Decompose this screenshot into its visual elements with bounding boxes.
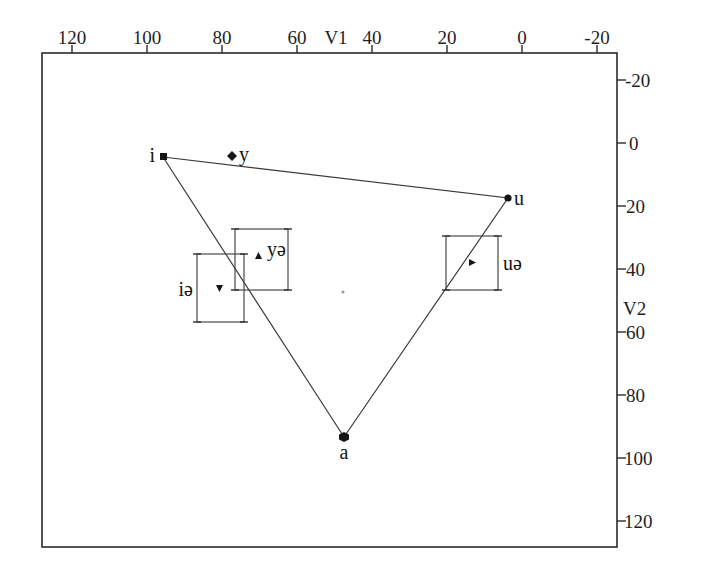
- vowel-point-a: a: [339, 432, 349, 463]
- box-ye-schwa: yə: [231, 229, 292, 290]
- top-tick-label-120: 120: [58, 27, 87, 48]
- triangle-right-icon-ue-schwa: [469, 259, 476, 266]
- triangle-up-icon-ye-schwa: [255, 252, 262, 259]
- right-tick-label-120: 120: [624, 511, 653, 532]
- point-label-y: y: [239, 143, 249, 166]
- point-label-u: u: [514, 187, 524, 209]
- point-label-i: i: [149, 144, 155, 166]
- box-ie-schwa: iə: [179, 254, 248, 322]
- plot-frame: [42, 53, 617, 547]
- box-label-ie-schwa: iə: [179, 278, 194, 300]
- circle-marker-u: [504, 194, 511, 201]
- faint-center-dot: [341, 290, 344, 293]
- vowel-chart-page: 120 100 80 60 40 20 0 -20 V1 -20 0 20: [0, 0, 712, 580]
- point-label-a: a: [340, 441, 349, 463]
- box-label-ue-schwa: uə: [503, 252, 522, 274]
- triangle-down-icon-ie-schwa: [216, 285, 223, 292]
- box-label-ye-schwa: yə: [267, 238, 286, 261]
- right-tick-label-80: 80: [626, 385, 645, 406]
- right-tick-label-100: 100: [624, 448, 653, 469]
- vowel-triangle-path: [163, 157, 508, 437]
- top-tick-label-20: 20: [438, 27, 457, 48]
- right-tick-label-minus20: -20: [625, 70, 650, 91]
- top-tick-label-minus20: -20: [584, 27, 609, 48]
- right-tick-label-60: 60: [626, 322, 645, 343]
- axis-title-v1: V1: [324, 27, 347, 48]
- diamond-marker-y: [227, 151, 237, 161]
- top-tick-label-0: 0: [517, 27, 527, 48]
- vowel-point-i: i: [149, 144, 167, 166]
- right-tick-label-40: 40: [626, 259, 645, 280]
- top-tick-label-60: 60: [288, 27, 307, 48]
- vowel-plot-svg: 120 100 80 60 40 20 0 -20 V1 -20 0 20: [0, 0, 712, 580]
- top-tick-label-100: 100: [133, 27, 162, 48]
- axis-title-v2: V2: [623, 298, 646, 319]
- right-tick-label-0: 0: [629, 133, 639, 154]
- box-ue-schwa: uə: [442, 236, 522, 290]
- right-tick-label-20: 20: [626, 196, 645, 217]
- top-tick-label-40: 40: [363, 27, 382, 48]
- vowel-point-u: u: [504, 187, 524, 209]
- square-marker-i: [160, 153, 167, 160]
- vowel-point-y: y: [227, 143, 249, 166]
- top-tick-label-80: 80: [213, 27, 232, 48]
